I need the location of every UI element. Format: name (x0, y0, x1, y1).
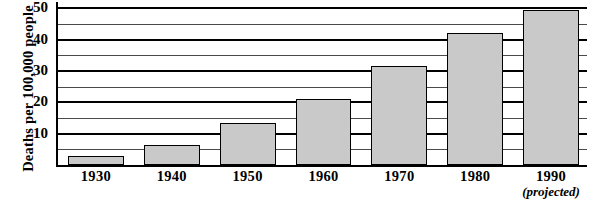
bar-chart: Deaths per 100,000 people 1020304050 193… (0, 0, 591, 206)
x-axis-label-year: 1930 (58, 169, 134, 184)
bar-1930 (68, 156, 124, 165)
figure-caption (70, 199, 550, 206)
bar-1990 (523, 10, 579, 165)
y-axis-tick-labels: 1020304050 (0, 2, 52, 167)
x-axis-label-1930: 1930 (58, 169, 134, 184)
plot-area (56, 2, 587, 167)
bar-1960 (296, 99, 352, 165)
x-axis-label-year: 1960 (286, 169, 362, 184)
x-axis-label-1970: 1970 (361, 169, 437, 184)
y-axis-tick-label: 20 (2, 94, 48, 109)
y-axis-tick-label: 30 (2, 63, 48, 78)
x-axis-label-year: 1950 (210, 169, 286, 184)
x-axis-label-1990: 1990(projected) (513, 169, 589, 199)
y-axis-tick-label: 40 (2, 32, 48, 47)
bar-1980 (447, 33, 503, 165)
y-axis-tick-label: 50 (2, 0, 48, 15)
x-axis-label-note: (projected) (513, 184, 589, 199)
x-axis-label-1950: 1950 (210, 169, 286, 184)
x-axis-label-1980: 1980 (437, 169, 513, 184)
x-axis-label-year: 1980 (437, 169, 513, 184)
bar-1950 (220, 123, 276, 165)
x-axis-label-year: 1970 (361, 169, 437, 184)
y-axis-tick-label: 10 (2, 126, 48, 141)
x-axis-label-year: 1990 (513, 169, 589, 184)
x-axis-label-year: 1940 (134, 169, 210, 184)
x-axis-label-1940: 1940 (134, 169, 210, 184)
bar-1970 (371, 66, 427, 165)
x-axis-label-1960: 1960 (286, 169, 362, 184)
bars-layer (56, 2, 587, 167)
bar-1940 (144, 145, 200, 165)
